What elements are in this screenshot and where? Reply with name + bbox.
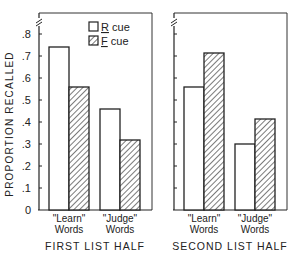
- y-tick-3: .3: [22, 138, 31, 150]
- bar-second-learn-r-cue: [184, 87, 204, 210]
- legend-label-r-cue: R cue: [101, 21, 130, 33]
- axis-break-icon: [36, 19, 42, 26]
- category-label-judge-words: Words: [241, 224, 270, 235]
- bar-first-learn-f-cue: [69, 87, 89, 210]
- category-label-judge: "Judge": [103, 213, 138, 224]
- bar-first-judge-r-cue: [100, 109, 120, 210]
- y-tick-1: .1: [22, 182, 31, 194]
- bar-first-learn-r-cue: [49, 47, 69, 210]
- y-tick-8: .8: [22, 28, 31, 40]
- legend-swatch-f-cue: [89, 36, 98, 45]
- panel-first-list-half: R cue F cue "Learn" Words "Judge" Words …: [36, 13, 152, 252]
- legend-swatch-r-cue: [89, 22, 98, 31]
- bar-second-judge-r-cue: [235, 144, 255, 210]
- category-label-judge-words: Words: [106, 224, 135, 235]
- category-label-learn: "Learn": [53, 213, 86, 224]
- category-label-learn-words: Words: [190, 224, 219, 235]
- legend: R cue F cue: [89, 21, 130, 47]
- y-tick-2: .2: [22, 160, 31, 172]
- y-tick-4: .4: [22, 116, 31, 128]
- y-tick-7: .7: [22, 50, 31, 62]
- category-label-learn-words: Words: [55, 224, 84, 235]
- y-tick-5: .5: [22, 94, 31, 106]
- bar-first-judge-f-cue: [120, 140, 140, 210]
- category-label-judge: "Judge": [238, 213, 273, 224]
- chart-canvas: PROPORTION RECALLED 0 .1 .2 .3 .4 .5 .6 …: [0, 0, 299, 258]
- y-tick-labels: 0 .1 .2 .3 .4 .5 .6 .7 .8: [22, 28, 31, 216]
- legend-label-f-cue: F cue: [101, 35, 129, 47]
- y-tick-0: 0: [25, 204, 31, 216]
- bar-second-learn-f-cue: [204, 53, 224, 210]
- panel-title-second-list-half: SECOND LIST HALF: [172, 240, 288, 252]
- y-axis-label: PROPORTION RECALLED: [4, 51, 15, 196]
- category-label-learn: "Learn": [188, 213, 221, 224]
- panel-title-first-list-half: FIRST LIST HALF: [45, 240, 145, 252]
- bar-second-judge-f-cue: [255, 119, 275, 210]
- panel-second-list-half: "Learn" Words "Judge" Words SECOND LIST …: [171, 13, 288, 252]
- y-tick-6: .6: [22, 72, 31, 84]
- axis-break-icon: [171, 19, 177, 26]
